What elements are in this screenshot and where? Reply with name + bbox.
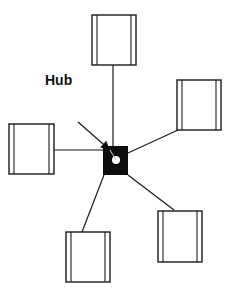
node-bottom-right (158, 211, 202, 262)
link-line-bottom-left (82, 175, 104, 232)
node-box (9, 124, 54, 174)
hub-label: Hub (45, 73, 72, 87)
hub-network-diagram (0, 0, 228, 288)
node-left (9, 124, 54, 174)
node-box (92, 15, 136, 65)
node-top (92, 15, 136, 65)
link-line-right (128, 130, 178, 153)
node-bottom-left (66, 232, 110, 282)
link-line-bottom-right (128, 175, 174, 210)
node-box (66, 232, 110, 282)
node-right (177, 80, 221, 130)
hub-device (103, 146, 128, 175)
node-box (177, 80, 221, 130)
node-box (158, 211, 202, 262)
